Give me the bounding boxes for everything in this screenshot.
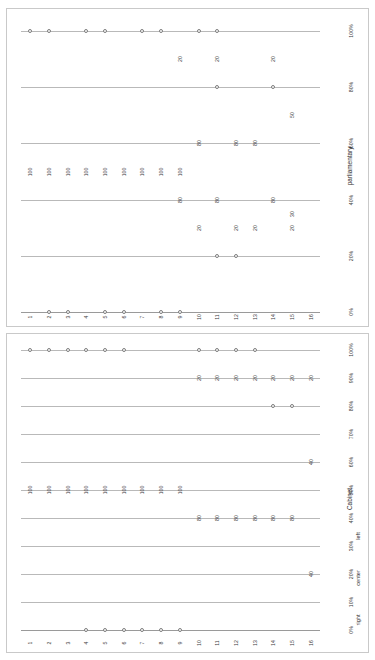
value-tick-100pct-text: 100% xyxy=(348,24,354,37)
data-marker-0-9 xyxy=(178,310,182,314)
data-label-labels_50pct-7: 100 xyxy=(135,483,149,497)
data-label-labels_40pct-10: 80 xyxy=(192,511,206,525)
value-tick-80pct-text: 80% xyxy=(348,82,354,92)
data-label-labels_90pct-11: 20 xyxy=(210,371,224,385)
data-marker-0-6 xyxy=(122,628,126,632)
value-tick-70pct: 70% xyxy=(338,429,364,439)
category-tick-7-text: 7 xyxy=(139,642,145,645)
data-marker-100-1 xyxy=(28,29,32,33)
panel-cabinet: 0%10%20%30%40%50%60%70%80%90%100%1234567… xyxy=(6,333,369,653)
category-tick-11: 11 xyxy=(210,636,224,650)
category-tick-10: 10 xyxy=(192,636,206,650)
data-label-labels_50pct-8-text: 100 xyxy=(158,167,164,176)
panel-title-parliamentary-text: parliamentary xyxy=(346,147,353,186)
data-marker-100-6 xyxy=(122,348,126,352)
category-tick-1: 1 xyxy=(23,636,37,650)
data-marker-80-14 xyxy=(271,85,275,89)
value-tick-80pct-text: 80% xyxy=(348,401,354,411)
data-label-labels_90pct-10: 20 xyxy=(192,371,206,385)
value-tick-40pct-text: 40% xyxy=(348,513,354,523)
data-label-labels_50pct-9: 100 xyxy=(173,483,187,497)
legend-item-left: left xyxy=(338,530,375,542)
data-marker-100-12 xyxy=(234,348,238,352)
gridline-70pct xyxy=(21,434,320,435)
legend-item-right: right xyxy=(338,614,375,626)
data-label-labels_50pct-3: 100 xyxy=(61,483,75,497)
value-tick-90pct-text: 90% xyxy=(348,373,354,383)
category-tick-1: 1 xyxy=(23,310,37,324)
data-label-labels_50pct-7-text: 100 xyxy=(139,486,145,495)
data-label-labels_40pct-13: 80 xyxy=(248,511,262,525)
data-label-labels_40pct-11-text: 80 xyxy=(214,515,220,521)
data-label-labels_40pct-15: 80 xyxy=(285,511,299,525)
data-marker-100-11 xyxy=(215,348,219,352)
data-label-labels_90pct-14-text: 20 xyxy=(270,56,276,62)
data-label-labels_90pct-11-text: 20 xyxy=(214,375,220,381)
data-marker-0-9 xyxy=(178,628,182,632)
data-label-labels_50pct-9-text: 100 xyxy=(177,167,183,176)
category-tick-15: 15 xyxy=(285,636,299,650)
data-label-labels_90pct-9: 20 xyxy=(173,52,187,66)
data-label-labels_35pct-15: 30 xyxy=(285,207,299,221)
data-label-labels_90pct-13-text: 20 xyxy=(252,375,258,381)
data-marker-80-14 xyxy=(271,404,275,408)
category-tick-2-text: 2 xyxy=(46,642,52,645)
data-label-labels_50pct-2-text: 100 xyxy=(46,167,52,176)
data-marker-80-15 xyxy=(290,404,294,408)
category-tick-9-text: 9 xyxy=(177,642,183,645)
category-tick-14-text: 14 xyxy=(270,314,276,320)
data-label-labels_90pct-12-text: 20 xyxy=(233,375,239,381)
data-marker-0-2 xyxy=(47,310,51,314)
gridline-10pct xyxy=(21,602,320,603)
category-tick-2: 2 xyxy=(42,636,56,650)
category-tick-11: 11 xyxy=(210,310,224,324)
category-tick-14: 14 xyxy=(266,310,280,324)
data-label-labels_50pct-6: 100 xyxy=(117,483,131,497)
category-tick-13: 13 xyxy=(248,310,262,324)
data-label-labels_60pct-12: 80 xyxy=(229,136,243,150)
data-label-labels_50pct-8: 100 xyxy=(154,165,168,179)
data-marker-100-5 xyxy=(103,348,107,352)
value-tick-20pct-text: 20% xyxy=(348,251,354,261)
category-tick-6: 6 xyxy=(117,636,131,650)
category-tick-11-text: 11 xyxy=(214,640,220,645)
category-tick-8-text: 8 xyxy=(158,316,164,319)
value-tick-10pct-text: 10% xyxy=(348,597,354,607)
data-marker-20-11 xyxy=(215,254,219,258)
category-tick-14-text: 14 xyxy=(270,640,276,646)
data-label-labels_50pct-9: 100 xyxy=(173,165,187,179)
data-label-labels_50pct-5: 100 xyxy=(98,483,112,497)
data-label-labels_30pct-13: 20 xyxy=(248,221,262,235)
data-label-labels_90pct-12: 20 xyxy=(229,371,243,385)
data-label-labels_40pct-12: 80 xyxy=(229,511,243,525)
panel-title-parliamentary: parliamentary xyxy=(326,159,372,173)
panel-title-cabinet: Cabinet xyxy=(326,492,372,506)
data-label-labels_50pct-8-text: 100 xyxy=(158,486,164,495)
data-label-labels_35pct-15-text: 30 xyxy=(289,211,295,217)
category-tick-4-text: 4 xyxy=(83,316,89,319)
data-label-labels_40pct-11-text: 80 xyxy=(214,197,220,203)
data-label-labels_30pct-15: 20 xyxy=(285,221,299,235)
category-tick-12-text: 12 xyxy=(233,314,239,320)
legend-item-center: center xyxy=(338,572,375,584)
gridline-80pct xyxy=(21,406,320,407)
data-label-labels_20pct-16: 40 xyxy=(304,567,318,581)
category-tick-5-text: 5 xyxy=(102,316,108,319)
data-label-labels_60pct-16: 40 xyxy=(304,455,318,469)
category-tick-13: 13 xyxy=(248,636,262,650)
category-tick-6-text: 6 xyxy=(121,642,127,645)
category-tick-13-text: 13 xyxy=(252,640,258,646)
data-label-labels_50pct-3: 100 xyxy=(61,165,75,179)
data-label-labels_30pct-12-text: 20 xyxy=(233,225,239,231)
data-label-labels_40pct-10-text: 80 xyxy=(196,515,202,521)
data-label-labels_50pct-2: 100 xyxy=(42,483,56,497)
category-tick-10-text: 10 xyxy=(196,640,202,646)
data-marker-100-2 xyxy=(47,348,51,352)
data-label-labels_40pct-14: 80 xyxy=(266,193,280,207)
value-tick-30pct: 30% xyxy=(338,541,364,551)
value-tick-70pct-text: 70% xyxy=(348,429,354,439)
data-marker-20-12 xyxy=(234,254,238,258)
data-marker-100-1 xyxy=(28,348,32,352)
category-tick-16-text: 16 xyxy=(308,314,314,320)
data-label-labels_50pct-8: 100 xyxy=(154,483,168,497)
